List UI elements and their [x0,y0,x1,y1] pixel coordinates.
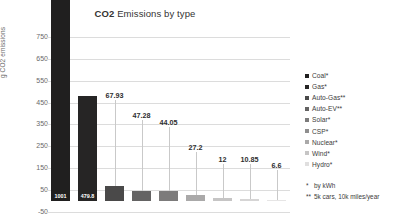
bar[interactable] [105,186,124,201]
bar[interactable]: 479.8 [78,96,97,201]
legend-item-label: Solar* [312,116,330,123]
footnote-cars-text: 5k cars, 10k miles/year [314,193,379,200]
bar[interactable]: 1001 [51,0,70,201]
bar[interactable] [213,198,232,201]
legend-item-label: CSP* [312,128,328,135]
legend-item-label: Coal* [312,72,328,79]
legend-item[interactable]: Auto-EV** [305,103,400,114]
legend-item-label: Hydro* [312,161,332,168]
label-leader-line [223,164,224,198]
legend-swatch-icon [305,151,309,155]
footnote-kwh-mark: * [306,180,314,191]
footnote-kwh: *by kWh [306,180,400,191]
gridline [47,59,290,60]
legend-swatch-icon [305,118,309,122]
legend-item[interactable]: CSP* [305,125,400,136]
legend-swatch-icon [305,107,309,111]
y-tick-label: 750 [22,33,48,40]
plot-area: 1001479.867.9347.2844.0527.21210.856.6 [47,26,290,212]
legend-swatch-icon [305,129,309,133]
gridline [47,37,290,38]
bar[interactable] [267,200,286,201]
legend-item[interactable]: Gas* [305,81,400,92]
legend-swatch-icon [305,140,309,144]
bar-value-label: 6.6 [257,161,297,170]
gridline [47,212,290,213]
legend-swatch-icon [305,162,309,166]
bar-value-label: 44.05 [149,118,189,127]
chart-title-bold: CO2 [95,8,115,19]
y-tick-label: 650 [22,55,48,62]
legend-item[interactable]: Coal* [305,70,400,81]
y-tick-label: 350 [22,120,48,127]
y-tick-label: 250 [22,142,48,149]
label-leader-line [250,164,251,199]
gridline [47,81,290,82]
legend-item[interactable]: Auto-Gas** [305,92,400,103]
legend-item[interactable]: Solar* [305,114,400,125]
y-tick-label: 450 [22,99,48,106]
chart-title-rest: Emissions by type [114,8,195,19]
legend-item-label: Auto-EV** [312,105,342,112]
footnote-kwh-text: by kWh [314,182,335,189]
footnote-cars: **5k cars, 10k miles/year [306,191,400,202]
y-tick-label: -50 [22,208,48,215]
legend-swatch-icon [305,85,309,89]
bar-value-label: 67.93 [95,91,135,100]
y-tick-label: 50 [22,186,48,193]
y-axis-title: g CO2 emissions [0,0,6,78]
bar[interactable] [132,191,151,201]
bar[interactable] [159,191,178,201]
legend-swatch-icon [305,74,309,78]
footnotes: *by kWh **5k cars, 10k miles/year [306,180,400,202]
bar[interactable] [186,195,205,201]
legend-item[interactable]: Wind* [305,148,400,159]
legend-swatch-icon [305,96,309,100]
y-tick-label: 550 [22,77,48,84]
label-leader-line [277,170,278,200]
label-leader-line [142,120,143,191]
legend-item[interactable]: Nuclear* [305,137,400,148]
bar-value-label: 27.2 [176,143,216,152]
label-leader-line [115,100,116,186]
legend-item-label: Gas* [312,83,327,90]
legend-item[interactable]: Hydro* [305,159,400,170]
legend-item-label: Wind* [312,150,330,157]
bar-value-label: 479.8 [78,193,97,199]
chart-title: CO2 Emissions by type [0,8,290,19]
co2-emissions-bar-chart: CO2 Emissions by type g CO2 emissions 75… [0,0,400,223]
bar[interactable] [240,199,259,201]
legend-item-label: Auto-Gas** [312,94,346,101]
bar-value-label: 1001 [51,193,70,199]
y-tick-label: 150 [22,164,48,171]
label-leader-line [196,152,197,195]
footnote-cars-mark: ** [306,191,314,202]
legend-item-label: Nuclear* [312,139,338,146]
legend: Coal*Gas*Auto-Gas**Auto-EV**Solar*CSP*Nu… [305,70,400,170]
label-leader-line [169,127,170,191]
